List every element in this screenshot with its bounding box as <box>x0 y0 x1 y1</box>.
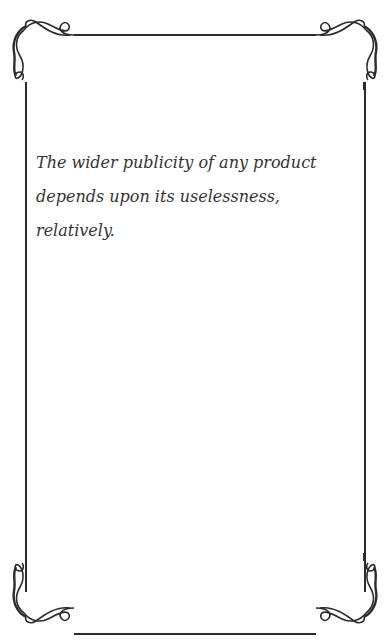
frame-bottom-line <box>74 633 316 635</box>
frame-right-line <box>364 82 366 592</box>
frame-top-line <box>74 34 316 36</box>
flourish-corner-icon <box>0 0 80 90</box>
flourish-corner-icon <box>310 0 390 90</box>
frame-left-line <box>25 82 27 592</box>
quote-text: The wider publicity of any product depen… <box>36 146 356 248</box>
flourish-corner-icon <box>310 553 390 643</box>
flourish-corner-icon <box>0 553 80 643</box>
